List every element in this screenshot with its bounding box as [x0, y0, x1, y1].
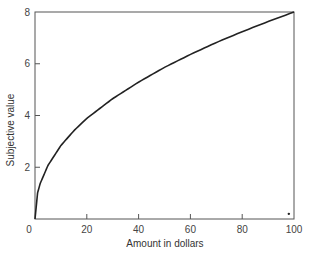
plot-border	[35, 12, 294, 219]
y-tick-label: 4	[24, 110, 30, 121]
y-axis-ticks: 2468	[24, 7, 40, 173]
x-tick-label: 0	[26, 224, 32, 235]
x-axis-ticks: 020406080100	[26, 214, 303, 235]
chart: 020406080100 2468 Amount in dollars Subj…	[0, 0, 310, 255]
y-tick-label: 2	[24, 162, 30, 173]
x-tick-label: 20	[81, 224, 93, 235]
subjective-value-curve	[35, 12, 294, 219]
y-tick-label: 6	[24, 58, 30, 69]
x-tick-label: 80	[237, 224, 249, 235]
x-tick-label: 40	[133, 224, 145, 235]
x-tick-label: 100	[286, 224, 303, 235]
plot-frame	[35, 12, 294, 219]
y-tick-label: 8	[24, 7, 30, 18]
x-tick-label: 60	[185, 224, 197, 235]
x-axis-label: Amount in dollars	[126, 238, 203, 249]
y-axis-label: Subjective value	[5, 93, 16, 166]
marker-dot	[288, 213, 290, 215]
